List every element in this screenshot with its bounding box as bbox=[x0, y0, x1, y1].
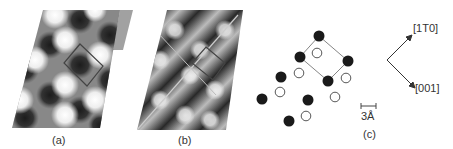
open-atom bbox=[275, 87, 285, 97]
direction-arrows bbox=[387, 35, 415, 88]
stm-image-b bbox=[130, 0, 250, 149]
open-atom bbox=[294, 68, 304, 78]
unit-cell-c bbox=[300, 36, 348, 81]
open-atom bbox=[330, 92, 340, 102]
filled-atom bbox=[257, 94, 268, 105]
scale-bar bbox=[361, 103, 376, 109]
figure-canvas bbox=[0, 0, 453, 149]
direction-label-1t0: [1T0] bbox=[413, 22, 438, 34]
filled-atom bbox=[284, 116, 295, 127]
filled-atom bbox=[295, 52, 306, 63]
open-atom bbox=[301, 111, 311, 121]
panel-label-b: (b) bbox=[178, 134, 191, 146]
structure-model bbox=[257, 31, 354, 127]
stm-image-a bbox=[0, 0, 130, 149]
open-atom bbox=[312, 48, 322, 58]
panel-label-c: (c) bbox=[363, 128, 376, 140]
panel-label-a: (a) bbox=[52, 134, 65, 146]
filled-atom bbox=[343, 56, 354, 67]
filled-atom bbox=[276, 72, 287, 83]
direction-label-001: [001] bbox=[415, 82, 439, 94]
filled-atom bbox=[323, 76, 334, 87]
filled-atom bbox=[303, 95, 314, 106]
scale-bar-label: 3Å bbox=[361, 110, 374, 122]
open-atom bbox=[341, 73, 351, 83]
filled-atom bbox=[314, 31, 325, 42]
